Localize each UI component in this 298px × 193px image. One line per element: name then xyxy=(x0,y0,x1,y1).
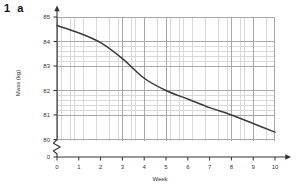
y-tick-label: 84 xyxy=(32,39,50,45)
y-tick-label: 82 xyxy=(32,88,50,94)
y-tick-label: 80 xyxy=(32,137,50,143)
y-tick-label: 85 xyxy=(32,14,50,20)
x-tick-label: 6 xyxy=(181,164,195,170)
x-tick-label: 3 xyxy=(115,164,129,170)
x-tick-label: 5 xyxy=(159,164,173,170)
arrow-up-head xyxy=(54,6,59,12)
figure-container: 1a xyxy=(0,0,298,193)
x-tick-label: 8 xyxy=(224,164,238,170)
line-chart: 85 84 83 82 81 80 0 0 1 2 3 4 5 6 7 8 9 … xyxy=(0,0,298,193)
x-axis xyxy=(57,154,291,159)
x-tick-label: 2 xyxy=(94,164,108,170)
y-tick-label: 0 xyxy=(32,154,50,160)
data-series-line xyxy=(57,26,275,133)
x-axis-title: Week xyxy=(130,176,190,182)
x-tick-label: 10 xyxy=(268,164,282,170)
axis-break-zigzag-icon xyxy=(53,140,60,158)
y-axis-title: Mass (kg) xyxy=(15,58,21,108)
x-tick-label: 4 xyxy=(137,164,151,170)
x-tick-label: 1 xyxy=(72,164,86,170)
y-tick-label: 83 xyxy=(32,63,50,69)
x-tick-label: 9 xyxy=(246,164,260,170)
y-axis xyxy=(53,6,60,158)
x-tick-label: 0 xyxy=(50,164,64,170)
x-tick-label: 7 xyxy=(203,164,217,170)
y-tick-label: 81 xyxy=(32,112,50,118)
arrow-right-head xyxy=(285,154,291,159)
